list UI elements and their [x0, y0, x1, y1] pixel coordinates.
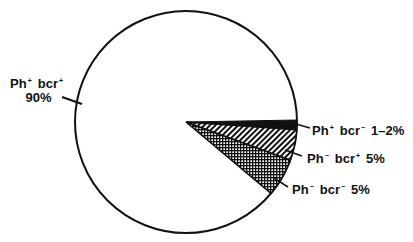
label-ph-pos-bcr-neg: Ph+bcr−1–2% [312, 121, 404, 138]
label-ph-neg-bcr-neg: Ph−bcr−5% [292, 180, 370, 197]
label-ph-neg-bcr-pos: Ph−bcr+5% [307, 149, 385, 166]
label-ph-pos-bcr-pos: Ph+bcr+ 90% [10, 74, 63, 105]
leader-line-ph-pos-bcr-neg [296, 124, 310, 128]
